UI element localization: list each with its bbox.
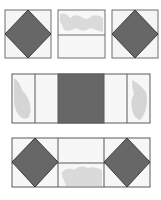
top-row bbox=[5, 10, 158, 58]
quilt-diagram-svg bbox=[0, 0, 161, 200]
top-middle-print-block bbox=[58, 10, 105, 58]
middle-center-dark-square bbox=[58, 74, 104, 123]
bottom-middle-print bbox=[62, 166, 102, 186]
middle-row bbox=[12, 74, 150, 123]
top-right-square-in-square-block bbox=[112, 10, 158, 58]
bottom-row bbox=[12, 138, 150, 187]
top-left-square-in-square-block bbox=[5, 10, 51, 58]
